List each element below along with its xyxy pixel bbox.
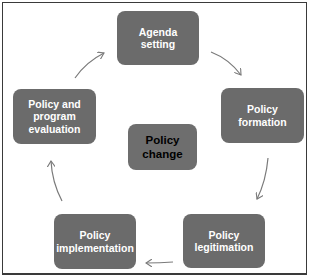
node-policy-evaluation: Policy and program evaluation <box>13 89 96 144</box>
node-label: Policy and program evaluation <box>28 98 81 136</box>
center-label: Policy change <box>142 133 182 161</box>
node-label: Policy implementation <box>56 229 134 254</box>
node-policy-change-center: Policy change <box>128 124 197 170</box>
node-label: Policy legitimation <box>195 229 254 254</box>
node-policy-implementation: Policy implementation <box>54 214 136 269</box>
node-policy-legitimation: Policy legitimation <box>183 214 265 268</box>
node-agenda-setting: Agenda setting <box>117 11 199 65</box>
node-label: Agenda setting <box>121 26 195 51</box>
node-policy-formation: Policy formation <box>221 88 304 143</box>
node-label: Policy formation <box>225 103 300 128</box>
